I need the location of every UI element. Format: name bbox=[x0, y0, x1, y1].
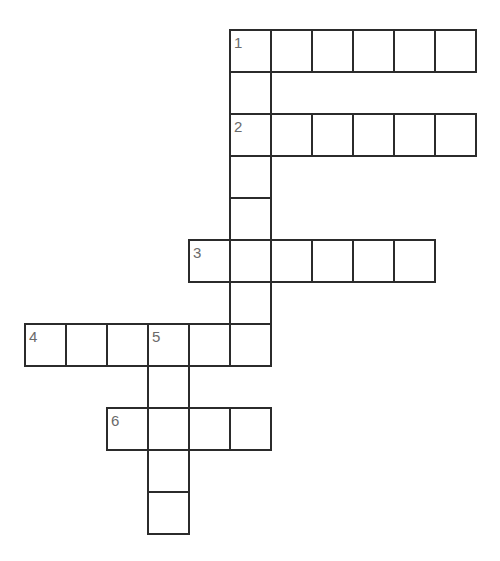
crossword-cell[interactable] bbox=[434, 29, 477, 73]
crossword-grid: 123456 bbox=[0, 0, 500, 561]
crossword-cell[interactable] bbox=[147, 407, 190, 451]
crossword-cell[interactable] bbox=[311, 113, 354, 157]
crossword-cell[interactable]: 6 bbox=[106, 407, 149, 451]
clue-number: 1 bbox=[234, 35, 242, 50]
crossword-cell[interactable] bbox=[311, 29, 354, 73]
crossword-cell[interactable] bbox=[106, 323, 149, 367]
crossword-cell[interactable] bbox=[147, 449, 190, 493]
crossword-cell[interactable] bbox=[270, 29, 313, 73]
crossword-cell[interactable] bbox=[147, 365, 190, 409]
crossword-cell[interactable]: 2 bbox=[229, 113, 272, 157]
crossword-cell[interactable] bbox=[270, 113, 313, 157]
crossword-cell[interactable] bbox=[229, 323, 272, 367]
crossword-cell[interactable] bbox=[393, 239, 436, 283]
crossword-cell[interactable]: 5 bbox=[147, 323, 190, 367]
crossword-cell[interactable] bbox=[311, 239, 354, 283]
crossword-cell[interactable] bbox=[65, 323, 108, 367]
crossword-cell[interactable] bbox=[188, 323, 231, 367]
crossword-cell[interactable] bbox=[352, 29, 395, 73]
crossword-cell[interactable] bbox=[229, 71, 272, 115]
clue-number: 5 bbox=[152, 329, 160, 344]
crossword-cell[interactable] bbox=[229, 155, 272, 199]
crossword-cell[interactable] bbox=[352, 113, 395, 157]
crossword-cell[interactable] bbox=[188, 407, 231, 451]
crossword-cell[interactable]: 4 bbox=[24, 323, 67, 367]
crossword-cell[interactable] bbox=[270, 239, 313, 283]
crossword-cell[interactable] bbox=[393, 29, 436, 73]
crossword-cell[interactable] bbox=[434, 113, 477, 157]
clue-number: 4 bbox=[29, 329, 37, 344]
crossword-cell[interactable] bbox=[393, 113, 436, 157]
crossword-cell[interactable]: 1 bbox=[229, 29, 272, 73]
clue-number: 2 bbox=[234, 119, 242, 134]
clue-number: 6 bbox=[111, 413, 119, 428]
crossword-cell[interactable]: 3 bbox=[188, 239, 231, 283]
crossword-cell[interactable] bbox=[352, 239, 395, 283]
crossword-cell[interactable] bbox=[229, 281, 272, 325]
crossword-cell[interactable] bbox=[229, 197, 272, 241]
crossword-cell[interactable] bbox=[147, 491, 190, 535]
crossword-cell[interactable] bbox=[229, 239, 272, 283]
crossword-cell[interactable] bbox=[229, 407, 272, 451]
clue-number: 3 bbox=[193, 245, 201, 260]
